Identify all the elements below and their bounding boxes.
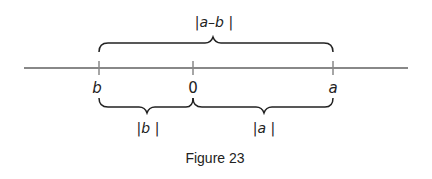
bottom-right-brace <box>193 98 333 113</box>
figure-caption: Figure 23 <box>185 150 244 166</box>
point-label-zero: 0 <box>188 79 198 97</box>
point-label-b: b <box>92 79 102 97</box>
bottom-left-brace <box>99 98 193 113</box>
point-label-a: a <box>328 79 337 97</box>
top-brace <box>99 37 333 52</box>
bottom-right-brace-label: |a | <box>253 120 275 137</box>
bottom-left-brace-label: |b | <box>137 120 160 137</box>
number-line-diagram: b 0 a |a–b | |b | |a | Figure 23 <box>0 0 432 179</box>
top-brace-label: |a–b | <box>195 14 233 31</box>
